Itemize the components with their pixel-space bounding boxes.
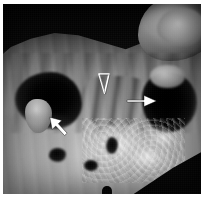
tissue-pit-a [49,148,67,161]
upper-right-tissue-lobe-secondary [157,8,201,46]
tissue-pit-b [84,160,98,171]
right-cavity-rim [150,65,186,88]
specimen-photograph [3,4,201,194]
bottom-edge-notch [102,186,112,194]
figure-root [0,0,205,204]
